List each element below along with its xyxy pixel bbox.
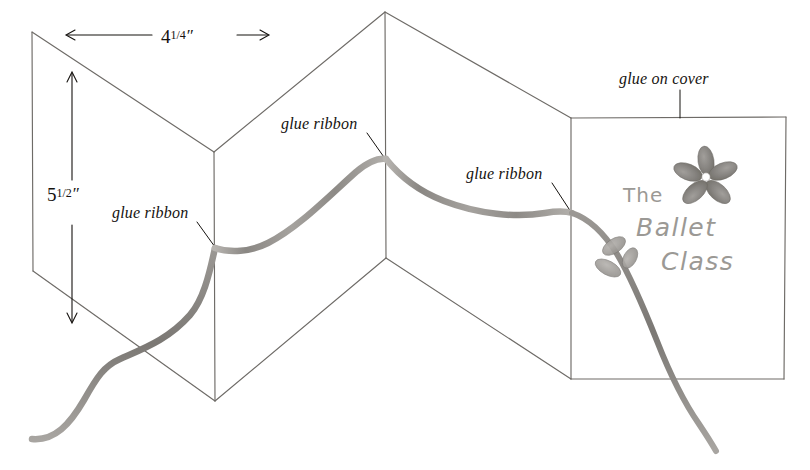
dimension-height-whole: 5 [47,184,57,205]
dimension-height-fraction: 1/2 [57,186,72,200]
card-diagram-page: glue ribbon glue ribbon glue ribbon glue… [0,0,810,470]
label-glue-ribbon-right: glue ribbon [466,165,542,183]
dimension-width-unit: ″ [186,26,194,45]
flower-center [702,173,710,181]
dimension-width: 41/4″ [161,26,194,48]
panel3-top-edge [385,12,571,118]
dimension-height: 51/2″ [47,184,80,206]
cover-panel-top-edge [571,117,786,118]
panel3-bottom-edge [386,258,571,379]
ribbon-segment-panel2 [215,159,386,251]
dimension-height-unit: ″ [72,184,80,203]
panel1-top-edge [32,32,214,152]
cover-text-line-3: Class [661,247,734,276]
leader-line-glue-ribbon-left [197,222,215,247]
label-glue-ribbon-center: glue ribbon [281,115,357,133]
label-glue-on-cover: glue on cover [619,70,709,88]
flower-icon [671,145,740,208]
leader-lines-group [197,90,680,247]
valley-fold-left [214,152,215,401]
ribbon-segment-tail-left [32,248,215,439]
panel-left-edge [32,32,33,271]
cover-text-line-2: Ballet [636,213,717,242]
label-glue-ribbon-left: glue ribbon [112,204,188,222]
dimension-width-whole: 4 [161,26,171,47]
panel2-bottom-edge [215,258,386,401]
panel1-bottom-edge [33,271,215,401]
ribbon-icon [32,159,716,451]
leader-line-glue-ribbon-right [552,183,571,212]
peak-fold-center [385,12,386,258]
cover-text-line-1: The [623,183,663,207]
dimension-width-fraction: 1/4 [171,28,186,42]
cover-panel-right-edge [784,117,786,379]
